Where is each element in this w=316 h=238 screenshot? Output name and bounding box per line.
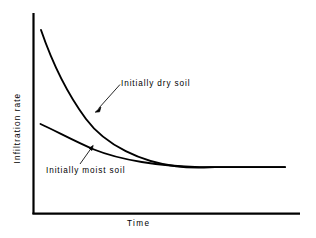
- x-axis-label: Time: [127, 220, 151, 228]
- moist-soil-leader-line: [80, 149, 91, 165]
- y-axis-label: Infiltration rate: [14, 78, 22, 178]
- plot-canvas: [0, 0, 316, 238]
- annotation-initially-moist-soil: Initially moist soil: [46, 167, 125, 175]
- curve-initially-dry-soil: [41, 30, 285, 168]
- dry-soil-leader-line: [99, 85, 121, 109]
- infiltration-rate-figure: Initially dry soil Initially moist soil …: [0, 0, 316, 238]
- curve-initially-moist-soil: [41, 124, 286, 167]
- dry-soil-arrowhead-icon: [95, 107, 101, 112]
- annotation-initially-dry-soil: Initially dry soil: [121, 80, 190, 88]
